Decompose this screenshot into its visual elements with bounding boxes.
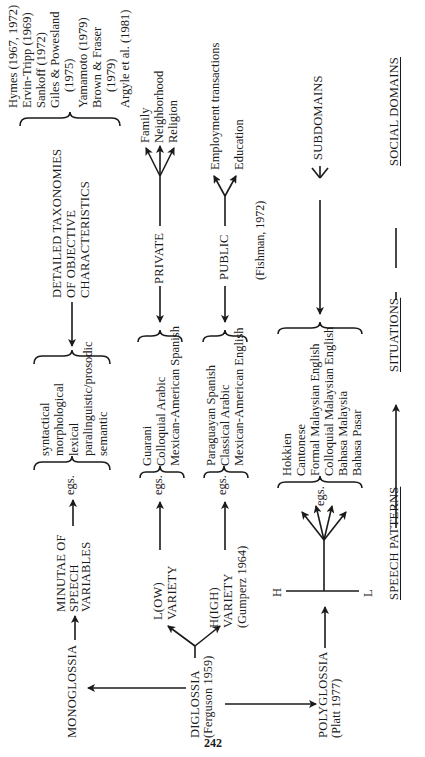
reference-item: (1975) — [62, 5, 76, 108]
reference-item: Sankoff (1972) — [34, 5, 48, 108]
level-speech-patterns: SPEECH PATTERNS — [388, 487, 401, 600]
egs-label-low: egs. — [152, 475, 165, 495]
polyglossia-examples: Hokkien Cantonese Formal Malaysian Engli… — [280, 327, 364, 476]
high-variety-line-1: H(IGH) — [208, 546, 222, 628]
fishman-reference: (Fishman, 1972) — [254, 201, 266, 280]
list-item: morphological — [52, 341, 66, 456]
reference-item: Hymes (1967, 1972) — [6, 5, 20, 108]
subdomains-label: SUBDOMAINS — [312, 75, 325, 160]
public-domains-list: Employment transactions Education — [204, 43, 252, 170]
fishman-text: (Fishman, 1972) — [254, 201, 266, 280]
taxonomy-references: Hymes (1967, 1972) Ervin-Tripp (1969) Sa… — [6, 5, 132, 108]
low-variety-line-1: L(OW) — [152, 565, 166, 620]
list-item: Classical Arabic — [218, 328, 232, 467]
diagram-page: MONOGLOSSIA MINUTAE OF SPEECH VARIABLES … — [0, 0, 425, 757]
public-node: PUBLIC — [218, 234, 231, 280]
list-item: Religion — [166, 71, 180, 143]
situations-label: SITUATIONS — [388, 298, 401, 372]
low-variety-line-2: VARIETY — [166, 565, 180, 620]
reference-item: Argyle et al. (1981) — [118, 5, 132, 108]
high-variety-reference: (Gumperz 1964) — [236, 546, 249, 628]
list-item: Mexican-American English — [232, 328, 246, 467]
high-variety-examples: Paraguayan Spanish Classical Arabic Mexi… — [204, 328, 246, 467]
reference-item: Yamamoto (1979) — [76, 5, 90, 108]
list-item: Formal Malaysian English — [308, 327, 322, 476]
taxonomies-line-3: CHARACTERISTICS — [78, 149, 92, 298]
diglossia-reference: (Ferguson 1959) — [202, 656, 216, 738]
speech-patterns-label: SPEECH PATTERNS — [388, 487, 401, 600]
diglossia-label: DIGLOSSIA — [188, 656, 202, 738]
level-situations: SITUATIONS — [388, 298, 401, 372]
minutae-line-1: MINUTAE OF — [55, 534, 68, 612]
l-text: L — [362, 589, 375, 597]
l-label: L — [362, 589, 375, 597]
reference-item: Giles & Powesland — [48, 5, 62, 108]
egs-label-poly: egs. — [314, 486, 327, 506]
list-item: paralinguistic/prosodic — [81, 341, 95, 456]
high-variety-node: H(IGH) VARIETY (Gumperz 1964) — [208, 546, 249, 628]
private-node: PRIVATE — [153, 233, 166, 284]
list-item: Guarani — [140, 326, 154, 466]
public-label: PUBLIC — [218, 234, 231, 280]
taxonomies-line-1: DETAILED TAXONOMIES — [50, 149, 64, 298]
speech-variables-list: syntactical morphological lexical parali… — [38, 341, 110, 456]
egs-label-high: egs. — [216, 475, 229, 495]
taxonomies-line-2: OF OBJECTIVE — [64, 149, 78, 298]
h-label: H — [271, 588, 284, 597]
list-item: Employment transactions — [204, 43, 228, 170]
list-item: semantic — [96, 341, 110, 456]
list-item: Mexican-American Spanish — [168, 326, 182, 466]
list-item: Neighborhood — [152, 71, 166, 143]
h-text: H — [271, 588, 284, 597]
page-number: 242 — [204, 736, 222, 751]
subdomains-node: SUBDOMAINS — [312, 75, 325, 160]
list-item: Cantonese — [294, 327, 308, 476]
list-item: Family — [138, 71, 152, 143]
reference-item: Brown & Fraser — [90, 5, 104, 108]
list-item: Education — [228, 43, 252, 170]
list-item: Colloquial Arabic — [154, 326, 168, 466]
egs-text: egs. — [314, 486, 327, 506]
monoglossia-label: MONOGLOSSIA — [66, 645, 79, 738]
list-item: Hokkien — [280, 327, 294, 476]
private-label: PRIVATE — [153, 233, 166, 284]
diglossia-node: DIGLOSSIA (Ferguson 1959) — [188, 656, 216, 738]
level-social-domains: SOCIAL DOMAINS — [388, 57, 401, 166]
reference-item: (1979) — [104, 5, 118, 108]
high-variety-line-2: VARIETY — [222, 546, 236, 628]
list-item: syntactical — [38, 341, 52, 456]
minutae-node: MINUTAE OF SPEECH VARIABLES — [55, 534, 93, 612]
polyglossia-reference: (Platt 1977) — [330, 652, 344, 738]
minutae-line-3: VARIABLES — [80, 534, 93, 612]
egs-text: egs. — [64, 475, 77, 495]
list-item: Bahasa Malaysia — [336, 327, 350, 476]
egs-label-variables: egs. — [64, 475, 77, 495]
list-item: Colloquial Malaysian English — [322, 327, 336, 476]
egs-text: egs. — [216, 475, 229, 495]
detailed-taxonomies-node: DETAILED TAXONOMIES OF OBJECTIVE CHARACT… — [50, 149, 92, 298]
reference-item: Ervin-Tripp (1969) — [20, 5, 34, 108]
polyglossia-node: POLYGLOSSIA (Platt 1977) — [316, 652, 344, 738]
polyglossia-label: POLYGLOSSIA — [316, 652, 330, 738]
private-domains-list: Family Neighborhood Religion — [138, 71, 180, 143]
monoglossia-node: MONOGLOSSIA — [66, 645, 79, 738]
low-variety-node: L(OW) VARIETY — [152, 565, 180, 620]
list-item: lexical — [67, 341, 81, 456]
list-item: Bahasa Pasar — [350, 327, 364, 476]
egs-text: egs. — [152, 475, 165, 495]
list-item: Paraguayan Spanish — [204, 328, 218, 467]
low-variety-examples: Guarani Colloquial Arabic Mexican-Americ… — [140, 326, 182, 466]
social-domains-label: SOCIAL DOMAINS — [388, 57, 401, 166]
